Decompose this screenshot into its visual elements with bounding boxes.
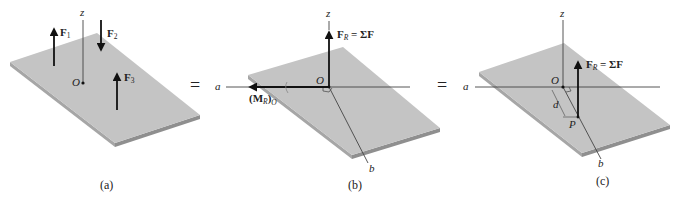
force-reduction-figure: z O F1 F2 F3 (a) = a b (MR)O (0, 0, 675, 204)
equals-sign-2: = (437, 75, 447, 95)
distance-label: d (553, 98, 559, 110)
caption-c: (c) (596, 174, 609, 188)
force-1-label: F1 (60, 26, 71, 40)
origin-label-a: O (72, 76, 80, 88)
origin-label-c: O (551, 74, 559, 86)
plate-a (10, 33, 200, 147)
equals-sign-1: = (190, 75, 200, 95)
plate-c (479, 43, 670, 157)
force-2-label: F2 (107, 27, 118, 41)
resultant-force-label-c: FR = ΣF (586, 58, 623, 72)
b-label-c: b (598, 157, 604, 169)
origin-point-a (81, 81, 84, 84)
plate-b (248, 47, 440, 159)
z-label-a: z (79, 6, 85, 18)
origin-point-b (328, 86, 331, 89)
point-p (577, 116, 580, 119)
resultant-force-label-b: FR = ΣF (337, 28, 374, 42)
panel-b: a b (MR)O z FR = ΣF O (b) (215, 7, 440, 192)
a-label-b: a (215, 80, 221, 92)
point-p-label: P (568, 118, 576, 130)
a-label-c: a (463, 80, 469, 92)
origin-point-c (561, 85, 564, 88)
origin-label-b: O (316, 74, 324, 86)
b-label-b: b (369, 162, 375, 174)
caption-b: (b) (348, 178, 362, 192)
z-label-c: z (559, 7, 565, 19)
panel-c: a z b O d P FR = ΣF (c) (463, 7, 670, 188)
z-label-b: z (325, 7, 331, 19)
caption-a: (a) (100, 178, 113, 192)
panel-a: z O F1 F2 F3 (a) (10, 6, 200, 192)
